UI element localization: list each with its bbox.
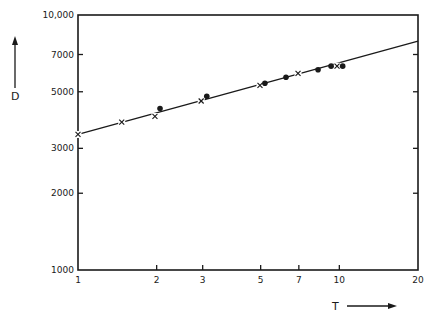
- x-tick-label: 20: [412, 275, 424, 285]
- y-tick-label: 5000: [51, 87, 74, 97]
- y-tick-label: 3000: [51, 143, 74, 153]
- x-tick-label: 5: [258, 275, 264, 285]
- dot-marker-icon: [315, 67, 321, 73]
- y-tick-label: 2000: [51, 188, 74, 198]
- cross-marker-icon: [118, 119, 125, 126]
- dot-marker-icon: [340, 63, 346, 69]
- fit-line: [78, 41, 418, 134]
- cross-marker-icon: [198, 97, 205, 104]
- x-tick-label: 3: [200, 275, 206, 285]
- x-axis-title: T: [331, 300, 339, 313]
- y-axis-ticks: 1000200030005000700010,000: [43, 10, 419, 275]
- x-axis-title-group: T: [331, 300, 397, 313]
- x-tick-label: 1: [75, 275, 81, 285]
- regression-line: [78, 41, 418, 134]
- dot-marker-icon: [328, 63, 334, 69]
- dot-marker-icon: [157, 106, 163, 112]
- cross-marker-icon: [75, 131, 82, 138]
- log-log-chart: 1000200030005000700010,000 123571020 D T: [0, 0, 432, 322]
- cross-marker-icon: [295, 70, 302, 77]
- x-axis-ticks: 123571020: [75, 265, 424, 285]
- x-axis-arrowhead-icon: [388, 303, 397, 309]
- dot-marker-icon: [283, 74, 289, 80]
- plot-border: [78, 15, 418, 270]
- dot-marker-icon: [204, 93, 210, 99]
- plot-frame: [78, 15, 418, 270]
- y-axis-title: D: [11, 90, 19, 103]
- data-points: [75, 63, 346, 138]
- y-axis-arrowhead-icon: [12, 36, 18, 45]
- x-tick-label: 10: [334, 275, 346, 285]
- y-tick-label: 10,000: [43, 10, 75, 20]
- cross-marker-icon: [334, 63, 341, 70]
- y-axis-title-group: D: [11, 36, 19, 103]
- y-tick-label: 7000: [51, 50, 74, 60]
- x-tick-label: 7: [296, 275, 302, 285]
- dot-marker-icon: [262, 80, 268, 86]
- cross-marker-icon: [151, 113, 158, 120]
- x-tick-label: 2: [154, 275, 160, 285]
- y-tick-label: 1000: [51, 265, 74, 275]
